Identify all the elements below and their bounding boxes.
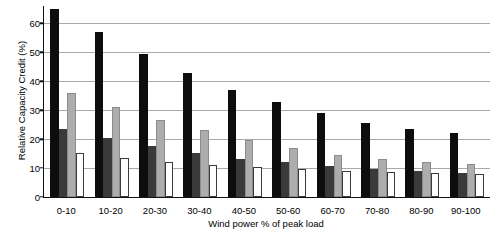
x-tick: 0-10	[44, 200, 88, 218]
x-tick-label: 0-10	[57, 205, 76, 216]
x-tick-label: 60-70	[320, 205, 344, 216]
x-tick: 50-60	[266, 200, 310, 218]
bar-series-1-black	[228, 90, 237, 197]
bar-series-1-black	[95, 32, 104, 197]
x-tick-label: 30-40	[187, 205, 211, 216]
x-tick: 90-100%	[444, 200, 488, 218]
bar-series-4-white	[342, 171, 351, 197]
y-axis-label: Relative Capacity Credit (%)	[16, 21, 27, 181]
x-tick-label: 10-20	[98, 205, 122, 216]
capacity-credit-bar-chart: Relative Capacity Credit (%) 01020304050…	[0, 0, 495, 248]
bar-series-4-white	[431, 173, 440, 197]
bar-group	[267, 6, 311, 197]
y-tick-label: 20	[29, 134, 40, 145]
bar-series-3-light-grey	[422, 162, 431, 197]
bar-groups	[44, 6, 490, 197]
bar-series-2-dark-grey	[458, 173, 467, 197]
bar-group	[311, 6, 355, 197]
bar-series-2-dark-grey	[148, 146, 157, 197]
bar-series-4-white	[387, 172, 396, 197]
bar-series-2-dark-grey	[103, 138, 112, 197]
bar-series-1-black	[139, 54, 148, 197]
y-tick-label: 50	[29, 47, 40, 58]
y-tick-label: 40	[29, 76, 40, 87]
x-tick-label: 80-90	[409, 205, 433, 216]
plot-area: 0102030405060	[43, 6, 490, 198]
bar-series-3-light-grey	[200, 130, 209, 197]
bar-group	[223, 6, 267, 197]
x-axis-ticks: 0-1010-2020-3030-4040-5050-6060-7070-808…	[43, 200, 489, 218]
bar-group	[45, 6, 89, 197]
bar-series-2-dark-grey	[192, 153, 201, 197]
bar-series-1-black	[361, 123, 370, 197]
bar-series-2-dark-grey	[236, 159, 245, 197]
bar-series-3-light-grey	[112, 107, 121, 197]
x-tick-label: 70-80	[365, 205, 389, 216]
y-tick-label: 30	[29, 105, 40, 116]
x-tick-label: 50-60	[276, 205, 300, 216]
bar-group	[445, 6, 489, 197]
bar-group	[178, 6, 222, 197]
bar-series-1-black	[50, 9, 59, 197]
x-tick: 30-40	[177, 200, 221, 218]
bar-series-2-dark-grey	[281, 162, 290, 197]
bar-series-1-black	[183, 73, 192, 197]
x-tick: 60-70	[310, 200, 354, 218]
x-tick: 80-90	[399, 200, 443, 218]
bar-series-3-light-grey	[156, 120, 165, 197]
bar-group	[134, 6, 178, 197]
bar-series-4-white	[209, 165, 218, 197]
bar-series-4-white	[120, 158, 129, 197]
bar-series-1-black	[405, 129, 414, 197]
x-tick-label: 40-50	[232, 205, 256, 216]
x-tick: 20-30	[133, 200, 177, 218]
bar-group	[89, 6, 133, 197]
bar-series-4-white	[253, 167, 262, 197]
bar-series-4-white	[76, 153, 85, 197]
bar-series-4-white	[165, 162, 174, 197]
x-tick-label: 90-100	[451, 205, 481, 216]
bar-series-2-dark-grey	[325, 166, 334, 197]
bar-group	[400, 6, 444, 197]
y-tick-label: 60	[29, 18, 40, 29]
bar-group	[356, 6, 400, 197]
bar-series-2-dark-grey	[370, 169, 379, 197]
x-axis-label: Wind power % of peak load	[43, 218, 489, 229]
y-tick-label: 10	[29, 163, 40, 174]
x-tick-label: 20-30	[143, 205, 167, 216]
bar-series-3-light-grey	[289, 148, 298, 197]
x-tick: 40-50	[222, 200, 266, 218]
x-tick: 70-80	[355, 200, 399, 218]
x-tick: 10-20	[88, 200, 132, 218]
bar-series-3-light-grey	[67, 93, 76, 197]
bar-series-3-light-grey	[334, 155, 343, 197]
bar-series-4-white	[475, 174, 484, 197]
bar-series-1-black	[272, 102, 281, 198]
bar-series-1-black	[317, 113, 326, 197]
bar-series-3-light-grey	[467, 164, 476, 197]
bar-series-3-light-grey	[378, 159, 387, 197]
bar-series-2-dark-grey	[59, 129, 68, 197]
bar-series-1-black	[450, 133, 459, 197]
bar-series-2-dark-grey	[414, 171, 423, 197]
bar-series-3-light-grey	[245, 140, 254, 197]
bar-series-4-white	[298, 169, 307, 197]
